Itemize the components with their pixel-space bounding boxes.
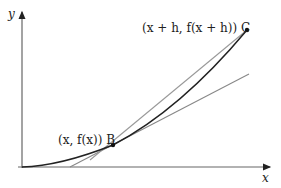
point-c-label: (x + h, f(x + h)) C: [142, 21, 250, 35]
tangent-line: [70, 74, 249, 167]
curve: [22, 30, 247, 167]
point-b-label: (x, f(x)) B: [58, 133, 115, 147]
diagram-canvas: y x (x, f(x)) B (x + h, f(x + h)) C: [0, 0, 281, 188]
y-axis-label: y: [7, 7, 15, 21]
x-axis-label: x: [262, 171, 269, 185]
